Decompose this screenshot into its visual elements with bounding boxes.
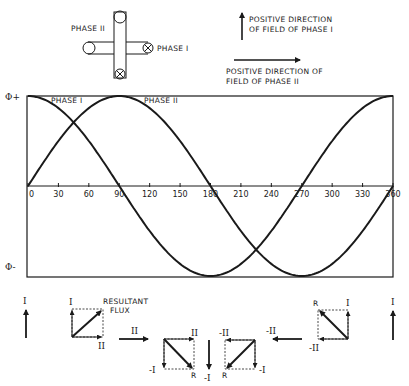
vector-diagram-2: II -I R [149, 328, 199, 380]
x-tick-label: 0 [29, 190, 34, 199]
phase-2-left-circle-icon [83, 42, 95, 54]
x-tick-label: 60 [84, 190, 94, 199]
transition-2-label: -II [266, 326, 277, 336]
d2-vertical-label: -I [149, 365, 156, 375]
diagram-canvas: PHASE II PHASE I POSITIVE DIRECTION OF F… [0, 0, 409, 386]
d3-horizontal-label: -II [219, 328, 230, 338]
curve-label-phase-2: PHASE II [144, 96, 178, 105]
phase-1-right-cross-circle-icon [143, 43, 153, 53]
d4-horizontal-label: -II [309, 343, 320, 353]
phase-1-direction-text-2: OF FIELD OF PHASE I [249, 25, 333, 34]
x-tick-label: 210 [233, 190, 248, 199]
d4-resultant-label: R [313, 299, 319, 308]
transition-1-label: II [131, 326, 139, 336]
x-tick-label: 150 [172, 190, 187, 199]
waveform-plot: 0306090120150180210240270300330360 Φ+ Φ-… [5, 92, 401, 277]
d2-horizontal-label: II [191, 328, 199, 338]
phase-2-direction-text-1: POSITIVE DIRECTION OF [226, 67, 323, 76]
resultant-arrow-icon [72, 311, 101, 337]
y-axis-top-label: Φ+ [5, 92, 20, 102]
y-axis-bottom-label: Φ- [5, 262, 15, 272]
x-tick-label: 240 [264, 190, 279, 199]
x-tick-label: 30 [53, 190, 63, 199]
d1-horizontal-label: II [98, 341, 106, 351]
middle-arrow-label: -I [204, 373, 211, 383]
coil-cross-diagram: PHASE II PHASE I [71, 11, 189, 79]
vector-diagrams: I I II RESULTANT FLUX II II -I R -I [23, 296, 395, 383]
d1-vertical-label: I [69, 297, 73, 307]
coil-label-phase-2: PHASE II [71, 24, 105, 33]
vector-diagram-3: -II -I R [219, 328, 266, 380]
x-tick-label: 300 [325, 190, 340, 199]
resultant-label-1: RESULTANT [103, 297, 148, 306]
x-tick-label: 330 [355, 190, 370, 199]
direction-legend: POSITIVE DIRECTION OF FIELD OF PHASE I P… [226, 13, 333, 86]
vector-diagram-4: R I -II [309, 298, 350, 353]
two-phase-flux-diagram: PHASE II PHASE I POSITIVE DIRECTION OF F… [0, 0, 409, 386]
phase-2-top-circle-icon [114, 11, 126, 23]
vector-diagram-1: I II RESULTANT FLUX [69, 297, 148, 351]
d2-resultant-label: R [191, 371, 197, 380]
d4-vertical-label: I [346, 298, 350, 308]
phase-1-direction-text-1: POSITIVE DIRECTION [249, 15, 332, 24]
curve-label-phase-1: PHASE I [51, 96, 83, 105]
x-tick-label: 120 [142, 190, 157, 199]
d3-resultant-label: R [222, 371, 228, 380]
phase-2-direction-text-2: FIELD OF PHASE II [226, 77, 299, 86]
right-arrow-label: I [391, 297, 395, 307]
left-arrow-label: I [23, 296, 27, 306]
d3-vertical-label: -I [259, 365, 266, 375]
resultant-label-2: FLUX [110, 306, 130, 315]
coil-label-phase-1: PHASE I [157, 44, 189, 53]
